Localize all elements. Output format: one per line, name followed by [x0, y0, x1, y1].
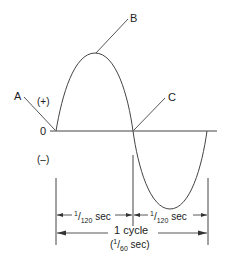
numerator: 1: [150, 210, 154, 217]
leader-c: [134, 98, 165, 130]
leader-b: [96, 19, 128, 53]
half-cycle-label-1: 1/120 sec: [74, 210, 111, 224]
arrowhead: [198, 231, 207, 236]
sine-wave-diagram: [0, 0, 225, 258]
unit: sec: [95, 211, 111, 222]
label-c: C: [168, 92, 176, 103]
full-cycle-time: (1/60 sec): [110, 238, 150, 252]
arrowhead: [57, 213, 63, 217]
arrowhead: [126, 213, 132, 217]
arrowhead: [134, 213, 140, 217]
unit: sec: [171, 211, 187, 222]
denominator: 60: [120, 245, 128, 252]
denominator: 120: [81, 217, 93, 224]
half-cycle-label-2: 1/120 sec: [150, 210, 187, 224]
label-b: B: [130, 13, 137, 24]
unit: sec: [131, 239, 147, 250]
denominator: 120: [157, 217, 169, 224]
label-positive: (+): [37, 97, 50, 107]
label-a: A: [14, 91, 21, 102]
arrowhead: [201, 213, 207, 217]
full-cycle-label: 1 cycle: [114, 225, 148, 236]
numerator: 1: [74, 210, 78, 217]
arrowhead: [57, 231, 66, 236]
numerator: 1: [113, 238, 117, 245]
label-zero: 0: [40, 126, 46, 137]
label-negative: (–): [37, 155, 49, 165]
